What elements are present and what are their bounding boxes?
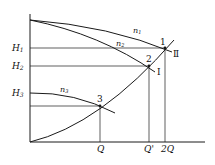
label-n2: n2 bbox=[116, 39, 124, 48]
label-system-II: Ⅱ bbox=[173, 49, 179, 59]
label-H1: H1 bbox=[11, 43, 24, 53]
point-1 bbox=[164, 47, 167, 50]
label-system-I: Ⅰ bbox=[157, 67, 161, 77]
label-Q: Q bbox=[97, 144, 105, 154]
label-n1: n1 bbox=[133, 26, 141, 35]
system-curve bbox=[30, 40, 174, 142]
label-H3: H3 bbox=[11, 88, 24, 98]
point-label-1: 1 bbox=[160, 37, 166, 47]
label-2Q: 2Q bbox=[160, 144, 175, 154]
point-3 bbox=[99, 105, 102, 108]
label-H2: H2 bbox=[11, 61, 24, 71]
label-Qprime: Q' bbox=[144, 144, 154, 154]
point-label-2: 2 bbox=[146, 54, 152, 64]
point-label-3: 3 bbox=[97, 94, 103, 104]
point-2 bbox=[148, 65, 151, 68]
pump-curve-diagram: 1 2 3 n1 n2 n3 Ⅱ Ⅰ H1 H2 H3 Q Q' 2Q bbox=[0, 0, 215, 165]
label-n3: n3 bbox=[60, 85, 68, 94]
